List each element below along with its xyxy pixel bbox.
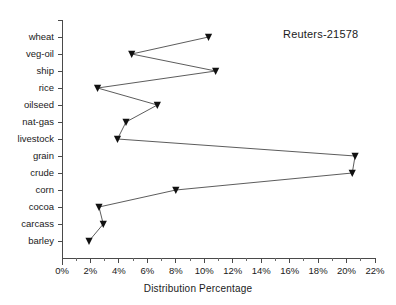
chart-container: Reuters-21578 wheatveg-oilshipriceoilsee…	[0, 0, 396, 305]
y-tick-label-ship: ship	[37, 65, 54, 76]
y-tick-labels: wheatveg-oilshipriceoilseednat-gaslivest…	[18, 31, 55, 246]
y-tick-label-cocoa: cocoa	[29, 201, 55, 212]
y-tick-label-grain: grain	[33, 150, 54, 161]
data-point-nat-gas	[122, 119, 129, 126]
data-point-oilseed	[154, 102, 161, 109]
y-tick-label-rice: rice	[39, 82, 54, 93]
x-tick-label-6%: 6%	[140, 265, 154, 276]
y-tick-label-crude: crude	[30, 167, 54, 178]
y-tick-label-nat-gas: nat-gas	[22, 116, 54, 127]
x-tick-label-4%: 4%	[112, 265, 126, 276]
data-point-grain	[351, 153, 358, 160]
x-tick-label-22%: 22%	[365, 265, 385, 276]
y-tick-label-livestock: livestock	[18, 133, 55, 144]
x-tick-label-12%: 12%	[223, 265, 243, 276]
x-tick-labels: 0%2%4%6%8%10%12%14%16%18%20%22%	[55, 265, 385, 276]
data-point-barley	[85, 238, 92, 245]
chart-plot-area: wheatveg-oilshipriceoilseednat-gaslivest…	[0, 0, 396, 305]
y-tick-label-wheat: wheat	[28, 31, 55, 42]
y-tick-label-veg-oil: veg-oil	[26, 48, 54, 59]
axes-group	[62, 20, 375, 258]
x-tick-label-16%: 16%	[280, 265, 300, 276]
x-tick-label-18%: 18%	[309, 265, 329, 276]
x-axis-title: Distribution Percentage	[0, 283, 396, 294]
y-tick-label-oilseed: oilseed	[24, 99, 54, 110]
x-tick-label-8%: 8%	[169, 265, 183, 276]
y-tick-label-corn: corn	[36, 184, 54, 195]
x-tick-label-14%: 14%	[252, 265, 272, 276]
ticks-group	[58, 20, 375, 265]
data-point-cocoa	[95, 204, 102, 211]
x-tick-label-20%: 20%	[337, 265, 357, 276]
y-tick-label-carcass: carcass	[21, 218, 54, 229]
y-tick-label-barley: barley	[28, 235, 54, 246]
series-polyline	[89, 37, 355, 241]
data-series-line	[89, 37, 355, 241]
x-tick-label-0%: 0%	[55, 265, 69, 276]
x-tick-label-2%: 2%	[84, 265, 98, 276]
x-tick-label-10%: 10%	[195, 265, 215, 276]
